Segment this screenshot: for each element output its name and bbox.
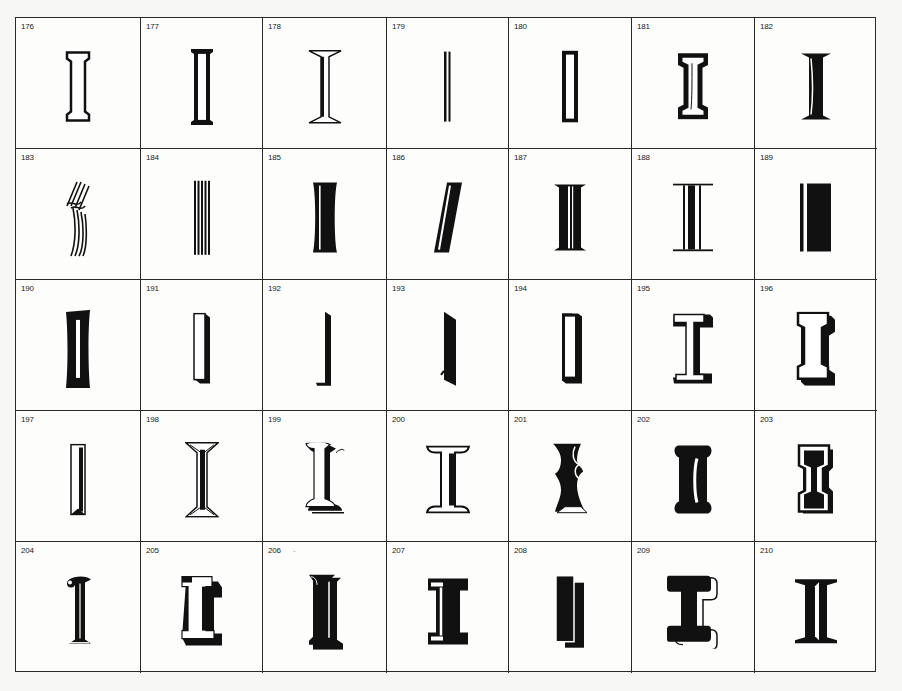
letter-i-3d-slab-outline-icon xyxy=(755,280,877,410)
specimen-cell: 187 xyxy=(509,149,632,280)
specimen-cell: 202 xyxy=(632,411,755,542)
letter-i-rounded-bone-inline-icon xyxy=(632,411,754,541)
letter-i-engraved-flared-icon xyxy=(141,411,262,541)
specimen-cell: 199 xyxy=(263,411,387,542)
specimen-cell: 209 xyxy=(632,542,755,673)
letter-i-bold-roman-highlight-icon xyxy=(755,18,877,148)
specimen-cell: 204 xyxy=(16,542,141,673)
specimen-cell: 188 xyxy=(632,149,755,280)
letter-i-slab-inline-bold-icon xyxy=(387,542,508,673)
specimen-cell: 206- xyxy=(263,542,387,673)
letter-i-outline-serif-icon xyxy=(16,18,140,148)
letter-i-italic-inline-icon xyxy=(387,149,508,279)
specimen-cell: 193 xyxy=(387,280,509,411)
letter-i-shadow-serif-open-icon xyxy=(632,280,754,410)
letter-i-concave-black-inline-icon xyxy=(16,280,140,410)
letter-i-shadow-slant-bar-icon xyxy=(387,280,508,410)
specimen-cell: 196 xyxy=(755,280,877,411)
specimen-cell: 191 xyxy=(141,280,263,411)
letter-i-3d-outline-bar-icon xyxy=(141,280,262,410)
specimen-cell: 189 xyxy=(755,149,877,280)
letter-i-black-shadow-serif-icon xyxy=(263,542,386,673)
letter-i-ornate-shadow-icon xyxy=(263,411,386,541)
specimen-cell: 185 xyxy=(263,149,387,280)
specimen-cell: 205 xyxy=(141,542,263,673)
specimen-cell: 180 xyxy=(509,18,632,149)
specimen-cell: 200 xyxy=(387,411,509,542)
specimen-cell: 182 xyxy=(755,18,877,149)
specimen-cell: 181 xyxy=(632,18,755,149)
letter-i-offset-double-bar-icon xyxy=(509,542,631,673)
letter-i-inline-bar-icon xyxy=(141,18,262,148)
specimen-cell: 177 xyxy=(141,18,263,149)
letter-i-collegiate-outline-icon xyxy=(755,411,877,541)
specimen-cell: 195 xyxy=(632,280,755,411)
letter-i-tuscan-shadow-icon xyxy=(509,411,631,541)
letter-i-heavy-outline-serif-icon xyxy=(632,18,754,148)
specimen-cell: 201 xyxy=(509,411,632,542)
letter-i-3d-block-slab-icon xyxy=(141,542,262,673)
specimen-cell: 194 xyxy=(509,280,632,411)
letter-i-flared-shaded-icon xyxy=(263,18,386,148)
letter-i-bevel-bar-icon xyxy=(16,411,140,541)
specimen-cell: 176 xyxy=(16,18,141,149)
letter-i-bracket-shadow-icon xyxy=(509,280,631,410)
specimen-cell: 197 xyxy=(16,411,141,542)
specimen-cell: 183 xyxy=(16,149,141,280)
specimen-cell: 210 xyxy=(755,542,877,673)
letter-i-bold-didone-inline-icon xyxy=(755,542,877,673)
letter-i-shadow-only-bar-icon xyxy=(263,280,386,410)
specimen-cell: 178 xyxy=(263,18,387,149)
letter-i-thin-double-line-icon xyxy=(387,18,508,148)
specimen-cell: 203 xyxy=(755,411,877,542)
specimen-cell: 192 xyxy=(263,280,387,411)
specimen-cell: 184 xyxy=(141,149,263,280)
letter-i-flared-shaded-open-icon xyxy=(387,411,508,541)
specimen-grid: 1761771781791801811821831841851861871881… xyxy=(15,17,876,672)
letter-i-outline-rect-heavy-icon xyxy=(509,18,631,148)
specimen-cell: 186 xyxy=(387,149,509,280)
letter-i-bar-with-rule-icon xyxy=(755,149,877,279)
specimen-cell: 190 xyxy=(16,280,141,411)
letter-i-bold-concave-inline-icon xyxy=(263,149,386,279)
letter-i-triple-line-slab-icon xyxy=(632,149,754,279)
specimen-cell: 179 xyxy=(387,18,509,149)
letter-i-ornate-ball-terminal-icon xyxy=(16,542,140,673)
letter-i-bold-slab-outline-shadow-icon xyxy=(632,542,754,673)
specimen-cell: 198 xyxy=(141,411,263,542)
letter-i-multiline-script-icon xyxy=(16,149,140,279)
specimen-cell: 208 xyxy=(509,542,632,673)
letter-i-bold-split-inline-icon xyxy=(509,149,631,279)
specimen-cell: 207 xyxy=(387,542,509,673)
letter-i-five-line-stripes-icon xyxy=(141,149,262,279)
